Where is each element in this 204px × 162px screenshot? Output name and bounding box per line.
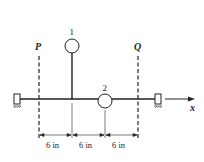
rotor-diagram: x P Q 1 2 6 in 6 in 6 in — [0, 0, 204, 162]
dimension-label-1: 6 in — [46, 140, 60, 150]
axis-label: x — [189, 102, 195, 113]
mass-2-label: 2 — [103, 83, 108, 93]
dimension-label-3: 6 in — [112, 140, 126, 150]
plane-q-label: Q — [134, 41, 141, 52]
mass-2 — [98, 94, 112, 108]
dimension-label-2: 6 in — [79, 140, 93, 150]
mass-1-label: 1 — [70, 27, 75, 37]
mass-1 — [65, 39, 79, 53]
dimension-lines — [40, 134, 137, 137]
plane-p-label: P — [35, 41, 42, 52]
x-axis-arrow-icon — [165, 97, 195, 102]
left-bearing-icon — [13, 94, 21, 108]
right-bearing-icon — [154, 94, 162, 108]
